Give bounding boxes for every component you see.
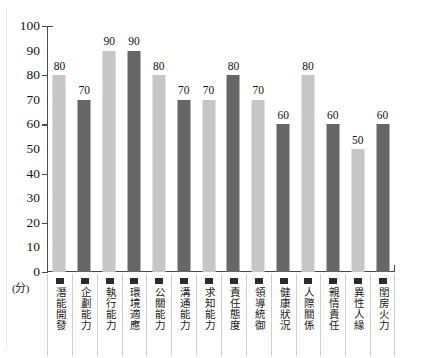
bar <box>326 124 339 272</box>
bar <box>53 75 66 272</box>
bar-slot: 80 <box>221 26 246 272</box>
square-marker-icon <box>205 278 213 284</box>
bar-slot: 60 <box>370 26 395 272</box>
category-label-text: 異性人緣 <box>353 287 364 331</box>
bar-slot: 70 <box>171 26 196 272</box>
category-label-cell: 健康狀況 <box>271 274 296 356</box>
square-marker-icon <box>81 278 89 284</box>
category-label-cell: 領導統御 <box>246 274 271 356</box>
category-label-text: 領導統御 <box>253 287 264 331</box>
bar-slot: 50 <box>345 26 370 272</box>
category-label-strip: 潛能開發企劃能力執行能力環境適應公關能力溝通能力求知能力責任態度領導統御健康狀況… <box>47 274 395 356</box>
bar-value-label: 60 <box>277 110 289 122</box>
category-label-cell: 溝通能力 <box>171 274 196 356</box>
category-label-cell: 企劃能力 <box>72 274 97 356</box>
bar-value-label: 80 <box>153 61 165 73</box>
category-label-cell: 親情責任 <box>320 274 345 356</box>
category-label-cell: 責任態度 <box>221 274 246 356</box>
bar <box>277 124 290 272</box>
y-axis-tick-label: 90 <box>27 44 41 58</box>
bar-value-label: 60 <box>377 110 389 122</box>
category-label-cell: 環境適應 <box>122 274 147 356</box>
category-label-text: 公關能力 <box>154 287 165 331</box>
bar <box>227 75 240 272</box>
bar <box>103 51 116 272</box>
category-label-text: 求知能力 <box>204 287 215 331</box>
square-marker-icon <box>230 278 238 284</box>
category-label-text: 責任態度 <box>228 287 239 331</box>
y-axis-tick-label: 20 <box>27 216 41 230</box>
bar-value-label: 70 <box>79 85 91 97</box>
square-marker-icon <box>180 278 188 284</box>
category-label-text: 企劃能力 <box>79 287 90 331</box>
bar <box>351 149 364 272</box>
category-label-text: 人際關係 <box>303 287 314 331</box>
bar-value-label: 80 <box>302 61 314 73</box>
square-marker-icon <box>155 278 163 284</box>
bar <box>252 100 265 272</box>
y-axis-tick-label: 60 <box>27 118 41 132</box>
category-label-cell: 執行能力 <box>97 274 122 356</box>
bar-slot: 80 <box>47 26 72 272</box>
square-marker-icon <box>354 278 362 284</box>
bar <box>177 100 190 272</box>
category-label-text: 環境適應 <box>129 287 140 331</box>
bar-value-label: 60 <box>327 110 339 122</box>
bar-slot: 60 <box>271 26 296 272</box>
category-label-text: 親情責任 <box>328 287 339 331</box>
bar-value-label: 90 <box>128 36 140 48</box>
category-label-text: 溝通能力 <box>179 287 190 331</box>
y-axis-tick-label: 0 <box>33 265 40 279</box>
y-axis-tick-label: 100 <box>20 19 40 33</box>
bar-slot: 70 <box>196 26 221 272</box>
square-marker-icon <box>329 278 337 284</box>
bar-value-label: 50 <box>352 135 364 147</box>
y-axis-tick <box>42 272 48 273</box>
square-marker-icon <box>304 278 312 284</box>
bar-slot: 60 <box>320 26 345 272</box>
bar-value-label: 70 <box>203 85 215 97</box>
category-label-text: 閨房火力 <box>377 287 388 331</box>
bar-slot: 80 <box>146 26 171 272</box>
y-axis-tick-label: 80 <box>27 68 41 82</box>
bar-series: 8070909080707080706080605060 <box>47 26 395 272</box>
bar <box>376 124 389 272</box>
bar-value-label: 70 <box>253 85 265 97</box>
bar-slot: 90 <box>122 26 147 272</box>
bar-value-label: 80 <box>228 61 240 73</box>
bar <box>127 51 140 272</box>
bar-slot: 70 <box>72 26 97 272</box>
square-marker-icon <box>130 278 138 284</box>
category-label-cell: 求知能力 <box>196 274 221 356</box>
bar-value-label: 80 <box>54 61 66 73</box>
category-label-text: 執行能力 <box>104 287 115 331</box>
bar <box>78 100 91 272</box>
category-label-cell: 異性人緣 <box>345 274 370 356</box>
category-label-cell: 閨房火力 <box>370 274 395 356</box>
bar-chart: 1009080706050403020100 (分) 8070909080707… <box>0 0 436 358</box>
bar <box>202 100 215 272</box>
y-axis-unit-label: (分) <box>12 279 29 295</box>
bar-value-label: 90 <box>103 36 115 48</box>
square-marker-icon <box>280 278 288 284</box>
bar <box>301 75 314 272</box>
y-axis-tick-label: 50 <box>27 142 41 156</box>
y-axis-tick-label: 40 <box>27 167 41 181</box>
category-label-text: 潛能開發 <box>54 287 65 331</box>
chart-page: 1009080706050403020100 (分) 8070909080707… <box>0 0 436 358</box>
y-axis-tick-label: 30 <box>27 191 41 205</box>
bar-slot: 70 <box>246 26 271 272</box>
category-label-cell: 潛能開發 <box>47 274 72 356</box>
square-marker-icon <box>379 278 387 284</box>
square-marker-icon <box>106 278 114 284</box>
category-label-text: 健康狀況 <box>278 287 289 331</box>
bar-value-label: 70 <box>178 85 190 97</box>
category-label-cell: 公關能力 <box>146 274 171 356</box>
y-axis-tick-label: 70 <box>27 93 41 107</box>
square-marker-icon <box>255 278 263 284</box>
category-label-cell: 人際關係 <box>296 274 321 356</box>
square-marker-icon <box>56 278 64 284</box>
y-axis-tick-label: 10 <box>27 241 41 255</box>
bar <box>152 75 165 272</box>
bar-slot: 80 <box>296 26 321 272</box>
